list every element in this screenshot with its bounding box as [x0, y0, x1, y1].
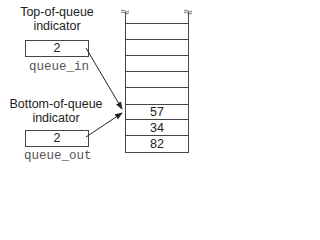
stack-cell: 34 [126, 121, 188, 135]
stack-cell: 57 [126, 105, 188, 119]
stack-cell: 82 [126, 137, 188, 151]
